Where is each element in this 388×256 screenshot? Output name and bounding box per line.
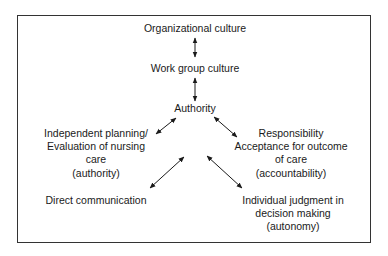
node-organizational-culture: Organizational culture (144, 22, 246, 35)
node-direct-communication: Direct communication (46, 194, 147, 207)
arrow-authority-to-communication (150, 157, 184, 188)
arrow-authority-to-planning (156, 118, 176, 134)
node-individual-judgment: Individual judgment in decision making (… (242, 194, 344, 234)
node-work-group-culture: Work group culture (151, 62, 240, 75)
node-authority: Authority (174, 102, 215, 115)
node-independent-planning: Independent planning/ Evaluation of nurs… (44, 127, 148, 180)
node-responsibility: Responsibility Acceptance for outcome of… (234, 127, 347, 180)
